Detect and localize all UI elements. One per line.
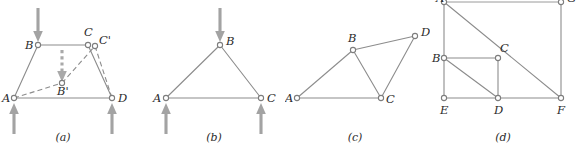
edge-a-A-Bprime [14, 83, 62, 98]
edge-c-BD [353, 36, 415, 50]
vertex-label-d-B: B [431, 51, 440, 65]
vertex-c-D [412, 33, 417, 38]
support-arrow-head-b-A [161, 103, 171, 114]
vertex-label-c-C: C [386, 92, 395, 106]
vertex-d-E [441, 95, 446, 100]
vertex-c-A [294, 95, 299, 100]
figure-root: A B C D B' C' (a) A B C (b) [0, 0, 581, 152]
vertex-c-C [378, 95, 383, 100]
edge-b-AB [166, 45, 220, 98]
vertex-c-B [350, 47, 355, 52]
figure-panel-c: A B C D (c) [285, 0, 430, 152]
edge-c-DC [381, 36, 415, 98]
vertex-label-a-Cprime: C' [99, 33, 111, 47]
support-arrow-head-b-C [256, 103, 266, 114]
vertex-d-F [558, 95, 563, 100]
load-arrow-head-a-top [33, 31, 43, 42]
edge-c-BC [353, 50, 381, 98]
support-arrow-head-a-A [9, 103, 19, 114]
figure-panel-d: A G B C E D F (d) [428, 0, 581, 152]
vertex-label-c-A: A [285, 91, 293, 105]
vertex-label-d-F: F [556, 103, 566, 117]
edge-a-AB [14, 45, 38, 98]
vertex-label-a-Bprime: B' [56, 84, 69, 98]
vertex-label-b-B: B [225, 34, 234, 48]
vertex-label-a-B: B [24, 38, 33, 52]
edge-b-BC [220, 45, 261, 98]
vertex-a-D [109, 95, 114, 100]
support-arrow-head-a-D [107, 103, 117, 114]
vertex-label-d-D: D [493, 103, 503, 117]
vertex-d-B [441, 55, 446, 60]
load-arrow-head-b-top [215, 31, 225, 42]
vertex-d-C [495, 55, 500, 60]
vertex-b-A [163, 95, 168, 100]
caption-b: (b) [206, 131, 222, 144]
caption-d: (d) [495, 131, 511, 144]
vertex-label-b-A: A [152, 91, 161, 105]
vertex-b-B [217, 42, 222, 47]
edge-a-Bprime-Cprime [62, 46, 95, 83]
caption-c: (c) [348, 131, 363, 144]
vertex-label-d-A: A [435, 0, 444, 5]
vertex-label-c-B: B [347, 31, 356, 45]
vertex-d-G [558, 0, 563, 5]
vertex-a-A [11, 95, 16, 100]
edge-d-BD [444, 58, 498, 98]
vertex-label-d-E: E [439, 103, 449, 117]
edge-a-CD [88, 45, 112, 98]
vertex-label-a-C: C [84, 25, 93, 39]
edge-a-Cprime-D [95, 46, 112, 98]
figure-panel-a: A B C D B' C' (a) [0, 0, 150, 152]
vertex-label-d-C: C [500, 41, 509, 55]
vertex-a-C [85, 42, 90, 47]
vertex-b-C [258, 95, 263, 100]
caption-a: (a) [55, 131, 70, 144]
vertex-label-d-G: G [567, 0, 576, 5]
vertex-a-Cprime [92, 43, 97, 48]
vertex-a-B [35, 42, 40, 47]
edge-c-AB [297, 50, 353, 98]
vertex-label-a-D: D [117, 91, 127, 105]
figure-panel-b: A B C (b) [148, 0, 288, 152]
vertex-label-b-C: C [267, 91, 276, 105]
vertex-d-D [495, 95, 500, 100]
vertex-label-a-A: A [1, 91, 10, 105]
